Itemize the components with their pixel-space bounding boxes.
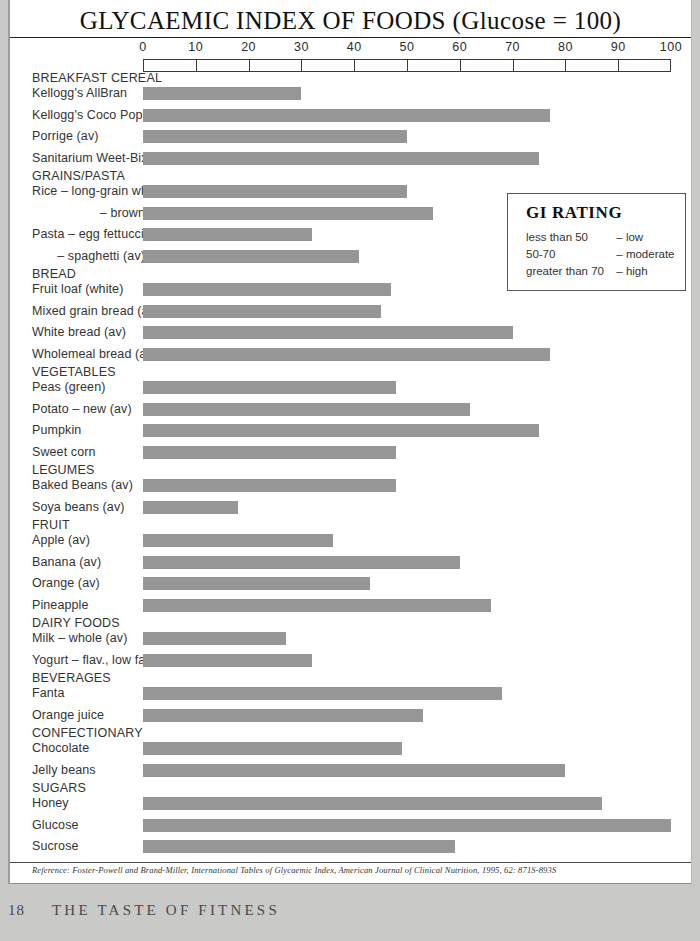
row-label: Soya beans (av) [32,500,125,514]
row-label: Pineapple [32,598,89,612]
row-label: Chocolate [32,741,89,755]
group-heading: BREAKFAST CEREAL [32,71,162,85]
value-bar [143,228,312,241]
chart-row: Glucose [10,816,691,838]
value-bar [143,599,491,612]
value-bar [143,403,470,416]
value-bar [143,130,407,143]
value-bar [143,185,407,198]
axis-tick [301,59,302,72]
chart-row: BREAKFAST CEREALKellogg's AllBran [10,84,691,106]
value-bar [143,326,513,339]
gi-rating-condition: greater than 70 [526,265,616,277]
gi-rating-value: – high [616,265,685,277]
axis-tick [407,59,408,72]
value-bar [143,348,550,361]
axis-tick-label: 60 [452,40,467,54]
axis-tick [565,59,566,72]
row-label: Orange juice [32,708,104,722]
group-heading: CONFECTIONARY [32,726,143,740]
row-label: Pumpkin [32,423,81,437]
axis-tick-label: 10 [188,40,203,54]
row-label: Sucrose [32,839,79,853]
chart-row: Pineapple [10,596,691,618]
row-label: Apple (av) [32,533,90,547]
value-bar [143,840,455,853]
row-label: Kellogg's AllBran [32,86,127,100]
row-label: Yogurt – flav., low fat [32,653,149,667]
reference-rule [10,862,691,863]
row-label: Pasta – egg fettuccine [32,227,158,241]
row-label: Porrige (av) [32,129,99,143]
row-label: Baked Beans (av) [32,478,133,492]
gi-rating-legend: GI RATING less than 50 – low 50-70 – mod… [507,193,686,291]
value-bar [143,424,539,437]
page-number: 18 [8,902,25,919]
row-label: Sanitarium Weet-Bix [32,151,148,165]
chart-x-axis: 0102030405060708090100 [10,40,691,72]
page-bottom-rule [10,883,691,884]
group-heading: BREAD [32,267,76,281]
chart-row: CONFECTIONARYChocolate [10,739,691,761]
reference-citation: Reference: Foster-Powell and Brand-Mille… [32,865,556,875]
axis-tick [513,59,514,72]
value-bar [143,654,312,667]
chart-title-band: GLYCAEMIC INDEX OF FOODS (Glucose = 100) [10,4,691,38]
gi-rating-value: – moderate [616,248,685,260]
axis-tick-label: 0 [139,40,146,54]
chart-row: BEVERAGESFanta [10,684,691,706]
axis-tick-label: 100 [660,40,682,54]
gi-rating-row: 50-70 – moderate [526,248,685,260]
row-label: Potato – new (av) [32,402,132,416]
gi-rating-row: greater than 70 – high [526,265,685,277]
group-heading: GRAINS/PASTA [32,169,125,183]
row-label: Banana (av) [32,555,101,569]
chart-row: FRUITApple (av) [10,531,691,553]
row-label: Fruit loaf (white) [32,282,123,296]
page-title: GLYCAEMIC INDEX OF FOODS (Glucose = 100) [80,7,621,35]
value-bar [143,797,602,810]
group-heading: BEVERAGES [32,671,111,685]
group-heading: DAIRY FOODS [32,616,120,630]
value-bar [143,479,396,492]
chart-row: Porrige (av) [10,127,691,149]
chart-row: Sanitarium Weet-Bix [10,149,691,171]
chart-row: Sweet corn [10,443,691,465]
value-bar [143,709,423,722]
axis-tick [196,59,197,72]
value-bar [143,534,333,547]
value-bar [143,687,502,700]
row-label: Jelly beans [32,763,96,777]
axis-tick [354,59,355,72]
chart-row: Kellogg's Coco Pops [10,106,691,128]
row-label: Glucose [32,818,79,832]
group-heading: SUGARS [32,781,86,795]
chart-row: Orange juice [10,706,691,728]
chart-row: Soya beans (av) [10,498,691,520]
row-label: – brown [32,206,145,220]
gi-rating-condition: 50-70 [526,248,616,260]
row-label: Fanta [32,686,64,700]
group-heading: FRUIT [32,518,70,532]
row-label: Sweet corn [32,445,96,459]
axis-tick-label: 90 [611,40,626,54]
running-footer: 18 THE TASTE OF FITNESS [8,902,280,919]
row-label: White bread (av) [32,325,126,339]
chart-row: White bread (av) [10,323,691,345]
axis-tick-label: 50 [400,40,415,54]
value-bar [143,577,370,590]
value-bar [143,250,359,263]
row-label: Orange (av) [32,576,100,590]
axis-tick-label: 80 [558,40,573,54]
chart-row: DAIRY FOODSMilk – whole (av) [10,629,691,651]
value-bar [143,109,550,122]
value-bar [143,632,286,645]
row-label: Milk – whole (av) [32,631,127,645]
chart-row: LEGUMESBaked Beans (av) [10,476,691,498]
chart-row: Sucrose [10,837,691,859]
value-bar [143,207,433,220]
value-bar [143,556,460,569]
axis-tick [618,59,619,72]
chart-rows: BREAKFAST CEREALKellogg's AllBranKellogg… [10,72,691,859]
gi-rating-heading: GI RATING [526,203,685,223]
